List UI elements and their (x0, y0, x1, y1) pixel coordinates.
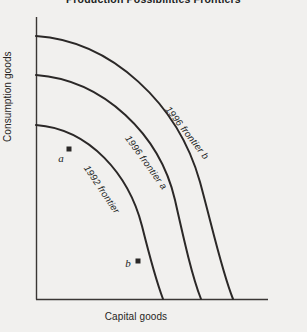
frontier-curve-1996-b (36, 36, 233, 299)
point-marker-a (67, 147, 72, 152)
x-axis-label: Capital goods (36, 311, 236, 322)
point-marker-b (136, 259, 141, 264)
point-label-a: a (58, 152, 64, 164)
point-label-b: b (125, 257, 131, 269)
y-axis-label: Consumption goods (2, 2, 13, 142)
production-possibilities-chart: Production Possibilities Frontiers 1996 … (0, 0, 307, 332)
